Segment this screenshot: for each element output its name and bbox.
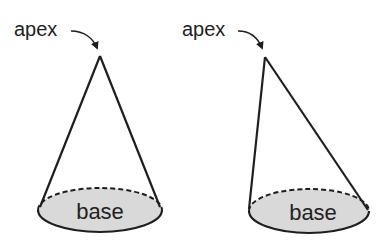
right-cone-left-side	[249, 57, 265, 209]
left-cone-right-side	[100, 56, 160, 207]
left-cone-base-label: base	[76, 199, 124, 224]
left-cone-left-side	[40, 56, 100, 207]
right-cone-apex-label: apex	[182, 18, 225, 40]
left-cone: apex base	[14, 18, 162, 232]
right-cone: apex base	[182, 18, 369, 233]
cone-diagram: apex base apex base	[0, 0, 390, 247]
diagram-canvas: apex base apex base	[0, 0, 390, 247]
left-cone-apex-arrow	[71, 31, 97, 48]
right-cone-right-side	[265, 57, 368, 210]
right-cone-base-label: base	[289, 200, 337, 225]
right-cone-apex-arrow	[238, 31, 262, 48]
left-cone-apex-label: apex	[14, 18, 57, 40]
